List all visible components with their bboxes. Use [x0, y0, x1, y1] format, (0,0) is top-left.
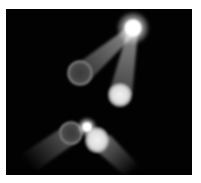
upper-left-ring: [67, 60, 93, 86]
upper-right-glow: [108, 83, 132, 107]
top-flare-core: [125, 20, 141, 36]
spotlight-scene: [6, 9, 192, 175]
lower-flare-core: [83, 123, 91, 131]
image-frame: [6, 9, 192, 175]
